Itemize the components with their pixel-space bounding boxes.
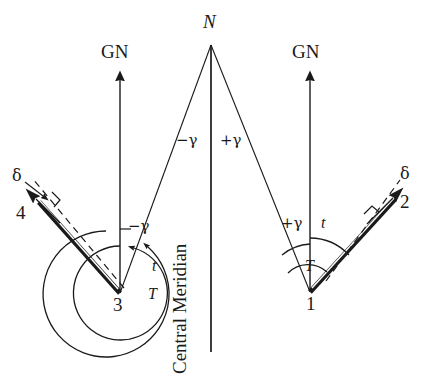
label-delta-right: δ (400, 166, 410, 182)
gamma-arc-right (282, 244, 310, 255)
label-gamma-positive-right: +γ (281, 216, 303, 231)
survey-line-1-to-2-inner-highlight (312, 198, 394, 288)
label-gamma-negative-lower: −γ (128, 219, 150, 234)
label-grid-north-left: GN (101, 42, 128, 61)
label-station-1: 1 (306, 294, 316, 313)
label-grid-north-right: GN (292, 42, 319, 61)
label-azimuth-left: T (148, 286, 157, 302)
survey-line-3-to-4-arrowhead (36, 199, 60, 223)
label-bearing-right: t (321, 215, 325, 231)
label-station-2: 2 (400, 192, 410, 211)
label-central-meridian: Central Meridian (170, 244, 189, 374)
label-azimuth-right: T (305, 258, 314, 274)
label-gamma-positive-upper: +γ (220, 133, 242, 148)
label-station-3: 3 (113, 295, 123, 314)
delta-angle-tick-left (52, 192, 60, 207)
arc-to-chord-dashed-line-right (326, 180, 400, 281)
delta-pointer-left (25, 182, 43, 196)
diagram-graphics (0, 0, 424, 376)
label-station-4: 4 (16, 203, 26, 222)
diagram-canvas: N GN GN −γ +γ −γ +γ δ δ 4 2 3 1 T t T t … (0, 0, 424, 376)
label-bearing-left: t (152, 258, 156, 274)
label-gamma-negative-upper: −γ (176, 133, 198, 148)
delta-angle-tick-right (364, 206, 379, 214)
label-north-apex: N (203, 12, 216, 31)
meridian-line-to-station-3 (120, 45, 211, 293)
meridian-line-to-station-1 (211, 45, 310, 292)
survey-line-1-to-2-outer (310, 199, 395, 292)
label-delta-left: δ (12, 168, 22, 184)
